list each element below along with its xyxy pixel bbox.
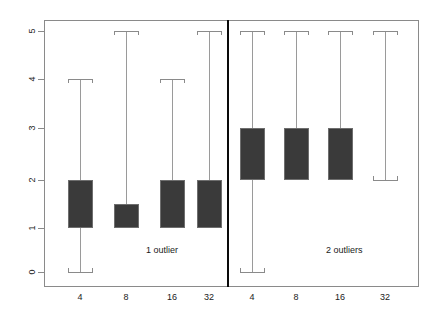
x-tick-label-right-32: 32 (371, 292, 399, 302)
y-tick-label-5: 5 (27, 21, 37, 41)
y-tick-label-4: 4 (27, 69, 37, 89)
whisker-cap-upper-tick-left (240, 31, 241, 35)
box-rect (160, 180, 185, 228)
box-rect (197, 180, 222, 228)
whisker-stem (340, 31, 341, 128)
whisker-cap-upper-tick-left (328, 31, 329, 35)
x-tick-label-left-32: 32 (195, 292, 223, 302)
y-tick-label-1: 1 (27, 218, 37, 238)
whisker-stem (80, 79, 81, 272)
x-tick-label-left-4: 4 (66, 292, 94, 302)
x-tick-label-left-8: 8 (112, 292, 140, 302)
whisker-cap-lower-tick-right (397, 176, 398, 180)
whisker-cap-upper (240, 31, 265, 32)
whisker-cap-upper-tick-left (114, 31, 115, 35)
whisker-cap-lower (373, 180, 398, 181)
y-tick-label-3: 3 (27, 118, 37, 138)
whisker-stem (172, 79, 173, 180)
box-rect (240, 128, 265, 180)
whisker-cap-upper (160, 79, 185, 80)
whisker-cap-lower (240, 272, 265, 273)
x-tick-label-left-16: 16 (158, 292, 186, 302)
whisker-cap-lower-tick-left (68, 268, 69, 272)
whisker-cap-upper-tick-right (308, 31, 309, 35)
whisker-cap-lower-tick-left (373, 176, 374, 180)
whisker-cap-upper (197, 31, 222, 32)
y-tick-label-2: 2 (27, 170, 37, 190)
box-rect (68, 180, 93, 228)
whisker-cap-upper-tick-right (352, 31, 353, 35)
whisker-cap-lower-tick-left (240, 268, 241, 272)
x-tick-label-right-4: 4 (238, 292, 266, 302)
whisker-cap-upper (68, 79, 93, 80)
right-panel-annotation: 2 outliers (326, 245, 363, 255)
box-rect (328, 128, 353, 180)
whisker-cap-upper-tick-right (221, 31, 222, 35)
x-tick-label-right-8: 8 (282, 292, 310, 302)
whisker-cap-upper-tick-left (284, 31, 285, 35)
box-rect (284, 128, 309, 180)
whisker-cap-upper-tick-right (184, 79, 185, 83)
panel-divider (227, 20, 229, 287)
y-tick-label-0: 0 (27, 262, 37, 282)
whisker-cap-upper (114, 31, 139, 32)
chart-root: 5 4 3 2 1 0 (0, 0, 437, 314)
whisker-cap-lower-tick-right (92, 268, 93, 272)
whisker-stem (296, 31, 297, 128)
whisker-stem (385, 31, 386, 180)
whisker-cap-upper-tick-right (264, 31, 265, 35)
whisker-cap-upper-tick-left (68, 79, 69, 83)
whisker-cap-upper-tick-left (373, 31, 374, 35)
whisker-cap-upper (328, 31, 353, 32)
x-tick-label-right-16: 16 (326, 292, 354, 302)
whisker-cap-upper-tick-left (197, 31, 198, 35)
whisker-cap-upper-tick-right (138, 31, 139, 35)
whisker-stem (209, 31, 210, 180)
whisker-cap-upper-tick-right (397, 31, 398, 35)
whisker-cap-upper-tick-right (92, 79, 93, 83)
box-rect (114, 204, 139, 228)
whisker-cap-upper-tick-left (160, 79, 161, 83)
whisker-cap-upper (373, 31, 398, 32)
whisker-stem (126, 31, 127, 204)
whisker-cap-lower-tick-right (264, 268, 265, 272)
whisker-cap-upper (284, 31, 309, 32)
left-panel-annotation: 1 outlier (146, 245, 178, 255)
whisker-cap-lower (68, 272, 93, 273)
